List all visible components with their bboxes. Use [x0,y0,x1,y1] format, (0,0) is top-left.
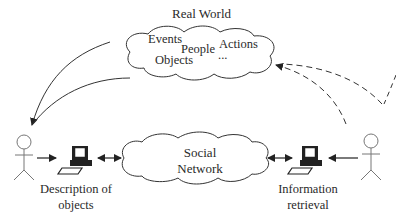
description-of-objects-label-line1: Description of [36,183,116,196]
information-retrieval-label-line2: retrieval [268,199,348,212]
real-world-item-events: Events [148,33,182,46]
dashed-arrow-right-edge [384,75,396,104]
right-actor-icon [361,134,381,180]
real-world-title: Real World [172,7,231,20]
social-network-label-line1: Social [175,146,225,159]
information-retrieval-label-line1: Information [268,183,348,196]
dashed-arrow-right-actor-to-realworld-2 [282,64,382,104]
arrow-realworld-to-left-actor-2 [32,78,130,125]
social-network-label-line2: Network [165,162,235,175]
left-computer-icon [58,146,92,174]
left-actor-icon [14,135,34,180]
arrow-realworld-to-left-actor-1 [32,42,110,125]
real-world-item-ellipsis: ... [218,49,227,62]
real-world-item-objects: Objects [155,54,193,67]
description-of-objects-label-line2: objects [36,199,116,212]
right-computer-icon [288,146,322,174]
